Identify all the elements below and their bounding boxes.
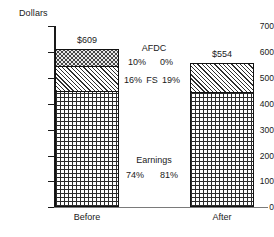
y-tick-mark [48,26,54,27]
bar-after-value-label: $554 [190,50,254,59]
category-label-after: After [190,213,254,222]
bar-before-value-label: $609 [55,36,119,45]
y-tick-mark [48,156,54,157]
y-tick-mark [48,78,54,79]
legend-earnings-after-percent: 81% [160,171,188,180]
y-tick-mark [48,52,54,53]
bar-before-segment-earnings [56,91,118,206]
legend-afdc-before-percent: 10% [118,58,146,67]
y-tick-mark [48,130,54,131]
y-axis-title: Dollars [19,8,48,18]
bar-before-segment-afdc [56,50,118,66]
legend-earnings-before-percent: 74% [118,171,144,180]
legend-heading-fs: FS [142,76,162,85]
stacked-bar-chart: Dollars 700 600 500 400 300 200 100 0 $6… [0,0,274,237]
bar-after-segment-earnings [191,92,253,206]
y-tick-label-700: 700 [228,22,274,31]
bar-after-segment-fs [191,64,253,92]
bar-after[interactable] [190,63,254,207]
legend-fs-before-percent: 16% [118,76,142,85]
bar-before[interactable] [55,49,119,207]
y-tick-mark [48,181,54,182]
y-tick-mark [48,104,54,105]
legend-fs-after-percent: 19% [162,76,188,85]
category-label-before: Before [55,213,119,222]
legend-afdc-after-percent: 0% [160,58,188,67]
x-axis-baseline [54,207,268,208]
legend-heading-earnings: Earnings [122,156,186,165]
bar-before-segment-fs [56,66,118,91]
legend-heading-afdc: AFDC [122,44,186,53]
